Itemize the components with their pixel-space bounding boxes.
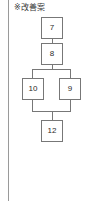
flowchart-node[interactable]: 12 bbox=[41, 120, 63, 142]
connector-line bbox=[32, 100, 33, 111]
connector-line bbox=[32, 69, 33, 78]
flowchart-node[interactable]: 7 bbox=[41, 17, 63, 39]
connector-line bbox=[70, 69, 71, 78]
flowchart-diagram: 7810912 bbox=[0, 0, 89, 201]
flowchart-node[interactable]: 9 bbox=[59, 78, 81, 100]
flowchart-node-label: 10 bbox=[29, 85, 38, 93]
flowchart-node-label: 8 bbox=[50, 50, 54, 58]
flowchart-node-label: 9 bbox=[68, 85, 72, 93]
flowchart-node-label: 12 bbox=[48, 127, 57, 135]
flowchart-node-label: 7 bbox=[50, 24, 54, 32]
flowchart-node[interactable]: 8 bbox=[41, 43, 63, 65]
connector-line bbox=[32, 69, 71, 70]
connector-line bbox=[52, 111, 53, 120]
flowchart-node[interactable]: 10 bbox=[22, 78, 44, 100]
flowchart-panel: ※改善案 7810912 bbox=[0, 0, 89, 201]
connector-line bbox=[70, 100, 71, 111]
